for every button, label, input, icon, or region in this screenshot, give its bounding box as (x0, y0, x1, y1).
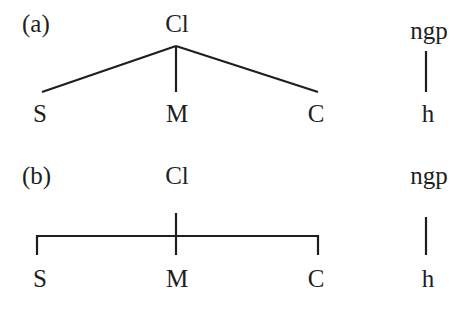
panel-b-child-m: M (166, 266, 188, 291)
tree-edges (0, 0, 472, 311)
panel-a-label: (a) (22, 11, 50, 36)
edge-a-cl-c (176, 46, 318, 92)
panel-a-child-m: M (166, 101, 188, 126)
panel-a-root-node: Cl (165, 11, 189, 36)
panel-b-root-node: Cl (165, 163, 189, 188)
edge-b-bracket (37, 236, 318, 255)
panel-a-child-c: C (308, 101, 325, 126)
diagram-canvas: (a) Cl S M C ngp h (b) Cl S M C ngp h (0, 0, 472, 311)
panel-a-edges (42, 46, 426, 92)
panel-b-side-child: h (422, 266, 435, 291)
panel-b-side-root: ngp (410, 163, 448, 188)
panel-b-edges (37, 213, 426, 255)
panel-b-child-c: C (308, 266, 325, 291)
panel-a-side-root: ngp (410, 18, 448, 43)
panel-a-child-s: S (33, 101, 47, 126)
panel-a-side-child: h (422, 101, 435, 126)
edge-a-cl-s (42, 46, 176, 92)
panel-b-child-s: S (33, 266, 47, 291)
panel-b-label: (b) (22, 163, 51, 188)
